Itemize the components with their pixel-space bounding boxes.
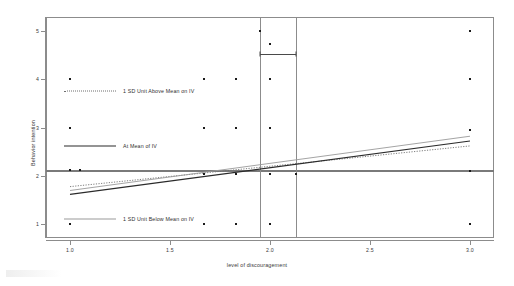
error-bar-cap [296, 51, 297, 56]
legend-item-below-mean: 1 SD Unit Below Mean on IV [64, 216, 194, 222]
y-tick [41, 31, 45, 32]
y-tick-label: 4 [31, 76, 39, 82]
x-tick [170, 241, 171, 245]
data-point [269, 127, 271, 129]
y-tick-label: 1 [31, 221, 39, 227]
vertical-reference-line [260, 17, 261, 238]
legend-label-below-mean: 1 SD Unit Below Mean on IV [123, 216, 194, 222]
x-axis-title: level of discouragement [0, 262, 514, 268]
data-point [69, 223, 71, 225]
x-tick-label: 1.5 [166, 247, 174, 253]
y-tick [41, 128, 45, 129]
chart-figure: 1.01.52.02.53.0 12345 level of discourag… [0, 0, 514, 286]
data-point [235, 223, 237, 225]
data-point [235, 127, 237, 129]
y-tick-label: 2 [31, 173, 39, 179]
data-point [469, 129, 471, 131]
data-point [259, 30, 261, 32]
y-axis-line [45, 17, 46, 238]
y-tick [41, 176, 45, 177]
data-point [295, 173, 297, 175]
data-point [235, 173, 237, 175]
page-artifact [6, 270, 62, 277]
data-point [269, 78, 271, 80]
vertical-reference-line [296, 17, 297, 238]
x-tick [470, 241, 471, 245]
data-point [235, 78, 237, 80]
data-point [203, 173, 205, 175]
data-point [469, 223, 471, 225]
error-bar-cap [260, 51, 261, 56]
y-tick [41, 79, 45, 80]
legend-swatch-dotted [64, 88, 116, 94]
y-tick-label: 5 [31, 28, 39, 34]
data-point [69, 127, 71, 129]
legend-swatch-solid [64, 143, 116, 149]
data-point [469, 30, 471, 32]
data-point [269, 43, 271, 45]
error-bar-line [260, 54, 296, 55]
legend-swatch-light [64, 216, 116, 222]
data-point [469, 170, 471, 172]
data-point [469, 78, 471, 80]
x-tick-label: 2.5 [366, 247, 374, 253]
x-tick [370, 241, 371, 245]
legend-item-at-mean: At Mean of IV [64, 143, 157, 149]
y-tick [41, 224, 45, 225]
data-point [69, 78, 71, 80]
data-point [203, 78, 205, 80]
data-point [203, 223, 205, 225]
legend-label-above-mean: 1 SD Unit Above Mean on IV [123, 88, 194, 94]
legend-item-above-mean: 1 SD Unit Above Mean on IV [64, 88, 194, 94]
data-point [269, 173, 271, 175]
x-tick-label: 3.0 [466, 247, 474, 253]
data-point [203, 127, 205, 129]
y-axis-title: Behavior intention [30, 120, 36, 166]
data-point [79, 169, 81, 171]
x-tick [270, 241, 271, 245]
data-point [269, 223, 271, 225]
x-tick-label: 2.0 [266, 247, 274, 253]
x-tick [70, 241, 71, 245]
legend-label-at-mean: At Mean of IV [123, 143, 157, 149]
data-point [69, 169, 71, 171]
x-tick-label: 1.0 [66, 247, 74, 253]
